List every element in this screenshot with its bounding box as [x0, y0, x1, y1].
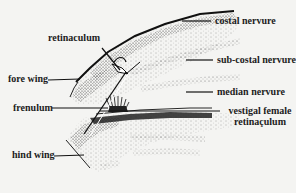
label-vestigal-line1: vestigal female: [224, 105, 296, 116]
label-costal-nervure: costal nervure: [215, 15, 276, 26]
label-vestigal-female-retinaculum: vestigal female retinaçulum: [224, 105, 296, 127]
label-sub-costal-nervure: sub-costal nervure: [217, 54, 296, 65]
label-hind-wing: hind wing: [12, 149, 55, 160]
label-fore-wing: fore wing: [8, 73, 48, 84]
label-retinaculum: retinaculum: [48, 32, 100, 43]
label-vestigal-line2: retinaçulum: [224, 116, 296, 127]
label-median-nervure: median nervure: [217, 86, 285, 97]
label-frenulum: frenulum: [13, 102, 53, 113]
